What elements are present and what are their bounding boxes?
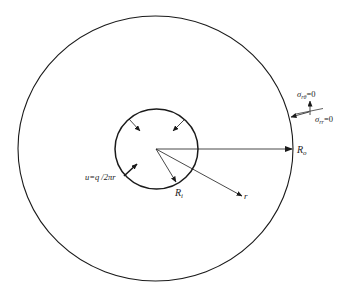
radial-coordinate-arrow-icon (156, 149, 242, 196)
shear-stress-condition-label: σrθ=0 (297, 89, 316, 100)
normal-stress-arrow-icon (291, 112, 309, 117)
inner-arrow-bottom-left-icon (124, 164, 137, 176)
inner-arrow-top-right-icon (173, 119, 185, 131)
inner-boundary-condition-label: u=q /2πr (85, 172, 116, 182)
inner-arrow-top-left-icon (129, 119, 140, 131)
outer-radius-label: Ro (296, 144, 307, 157)
radial-coordinate-label: r (244, 191, 248, 201)
inner-radius-arrow-icon (156, 149, 176, 182)
hollow-cylinder-diagram: Ro Ri r u=q /2πr σrθ=0 σrr=0 (0, 0, 358, 290)
normal-stress-condition-label: σrr=0 (315, 114, 333, 125)
outer-circle (18, 16, 293, 281)
inner-radius-label: Ri (174, 187, 183, 200)
